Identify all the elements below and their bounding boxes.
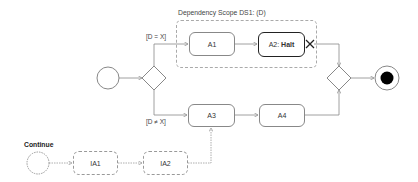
merge-diamond-icon — [327, 66, 351, 90]
activity-a4-label: A4 — [278, 112, 287, 119]
activity-a3-label: A3 — [207, 112, 216, 119]
initial-node-icon — [97, 67, 119, 89]
activity-ia2-label: IA2 — [160, 160, 171, 167]
activity-a4[interactable]: A4 — [259, 104, 305, 127]
activity-ia1[interactable]: IA1 — [73, 151, 118, 175]
continue-initial-node-icon — [27, 152, 49, 174]
activity-a2-label: A2: — [269, 41, 281, 48]
continue-label: Continue — [24, 141, 53, 148]
dependency-scope-label: Dependency Scope DS1: (D) — [178, 9, 266, 16]
guard-lower: [D ≠ X] — [146, 118, 166, 125]
activity-a3[interactable]: A3 — [188, 104, 235, 127]
activity-ia2[interactable]: IA2 — [143, 151, 188, 175]
activity-a2-halt[interactable]: A2: Halt — [258, 32, 305, 57]
activity-diagram: Dependency Scope DS1: (D) [D = X] [D ≠ X… — [0, 0, 418, 182]
final-node-icon — [375, 66, 399, 90]
activity-a1-label: A1 — [208, 41, 217, 48]
activity-a1[interactable]: A1 — [189, 32, 235, 56]
guard-upper: [D = X] — [146, 33, 166, 40]
activity-a2-halt-label: Halt — [281, 41, 294, 48]
activity-ia1-label: IA1 — [90, 160, 101, 167]
decision-diamond-icon — [142, 66, 166, 90]
